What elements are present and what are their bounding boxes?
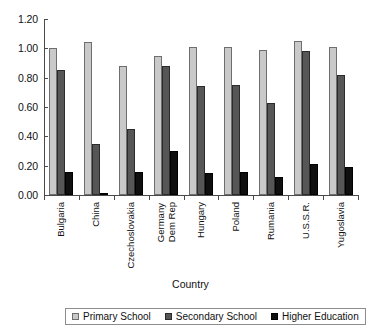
x-axis-tick-mark <box>218 195 219 200</box>
bar <box>135 172 143 195</box>
x-axis-title: Country <box>0 278 381 290</box>
x-axis-category: Hungary <box>184 202 219 266</box>
bar <box>189 47 197 195</box>
bar <box>84 42 92 195</box>
bar <box>259 50 267 195</box>
x-axis-category: U.S.S.R. <box>288 202 323 266</box>
x-axis-category-label: U.S.S.R. <box>300 202 311 239</box>
bar <box>275 177 283 195</box>
bar <box>310 164 318 195</box>
x-axis-tick-mark <box>114 195 115 200</box>
x-axis-tick-mark <box>44 195 45 200</box>
bar <box>240 172 248 195</box>
x-axis-category-label: Poland <box>231 202 242 232</box>
x-axis-line <box>44 195 358 196</box>
bar <box>302 51 310 195</box>
bar <box>162 66 170 195</box>
x-axis-tick-mark <box>79 195 80 200</box>
legend-label: Higher Education <box>282 311 359 322</box>
bar-group <box>253 19 288 195</box>
bar <box>92 144 100 195</box>
legend-label: Primary School <box>83 311 151 322</box>
bar-group <box>114 19 149 195</box>
x-axis-category-labels: BulgariaChinaCzechoslovakiaGermany Dem R… <box>44 202 358 266</box>
bar-group <box>149 19 184 195</box>
bar <box>337 75 345 195</box>
bar-chart: 1.201.000.800.600.400.200.00 BulgariaChi… <box>0 0 381 336</box>
bar-groups <box>44 19 358 195</box>
bar-group <box>44 19 79 195</box>
bar <box>154 56 162 195</box>
bar <box>197 86 205 195</box>
x-axis-category: China <box>79 202 114 266</box>
y-axis-tick-label: 1.20 <box>0 14 38 24</box>
x-axis-category-label: China <box>91 202 102 227</box>
x-axis-tick-mark <box>288 195 289 200</box>
x-axis-category: Germany Dem Rep <box>149 202 184 266</box>
x-axis-category: Yugoslavia <box>323 202 358 266</box>
y-axis-tick-label: 0.60 <box>0 102 38 112</box>
y-axis-tick-label: 0.00 <box>0 190 38 200</box>
bar <box>127 129 135 195</box>
bar <box>329 47 337 195</box>
legend-label: Secondary School <box>176 311 257 322</box>
legend-swatch-icon <box>72 313 79 320</box>
bar <box>49 48 57 195</box>
bar <box>65 172 73 195</box>
legend-swatch-icon <box>271 313 278 320</box>
x-axis-category-label: Yugoslavia <box>335 202 346 248</box>
x-axis-category-label: Rumania <box>266 202 277 240</box>
x-axis-category: Czechoslovakia <box>114 202 149 266</box>
x-axis-category-label: Bulgaria <box>56 202 67 237</box>
bar-group <box>218 19 253 195</box>
x-axis-tick-mark <box>184 195 185 200</box>
legend-item: Secondary School <box>165 311 257 322</box>
bar <box>345 167 353 195</box>
bar <box>100 193 108 195</box>
y-axis-tick-label: 0.40 <box>0 131 38 141</box>
bar-group <box>288 19 323 195</box>
x-axis-tick-mark <box>149 195 150 200</box>
x-axis-category-label: Hungary <box>196 202 207 238</box>
bar <box>119 66 127 195</box>
x-axis-tick-mark <box>253 195 254 200</box>
x-axis-category: Rumania <box>253 202 288 266</box>
bar-group <box>323 19 358 195</box>
chart-legend: Primary SchoolSecondary SchoolHigher Edu… <box>65 308 366 325</box>
legend-swatch-icon <box>165 313 172 320</box>
legend-item: Higher Education <box>271 311 359 322</box>
bar <box>57 70 65 195</box>
bar <box>294 41 302 195</box>
bar <box>205 173 213 195</box>
bar <box>267 103 275 195</box>
y-axis-tick-label: 0.80 <box>0 73 38 83</box>
y-axis-tick-label: 1.00 <box>0 43 38 53</box>
bar <box>170 151 178 195</box>
bar-group <box>184 19 219 195</box>
x-axis-tick-mark <box>358 195 359 200</box>
y-axis-tick-label: 0.20 <box>0 161 38 171</box>
x-axis-category: Bulgaria <box>44 202 79 266</box>
x-axis-tick-mark <box>323 195 324 200</box>
x-axis-category-label: Czechoslovakia <box>126 202 137 269</box>
bar <box>232 85 240 195</box>
bar <box>224 47 232 195</box>
legend-item: Primary School <box>72 311 151 322</box>
x-axis-category-label: Germany Dem Rep <box>156 202 177 242</box>
bar-group <box>79 19 114 195</box>
x-axis-category: Poland <box>218 202 253 266</box>
